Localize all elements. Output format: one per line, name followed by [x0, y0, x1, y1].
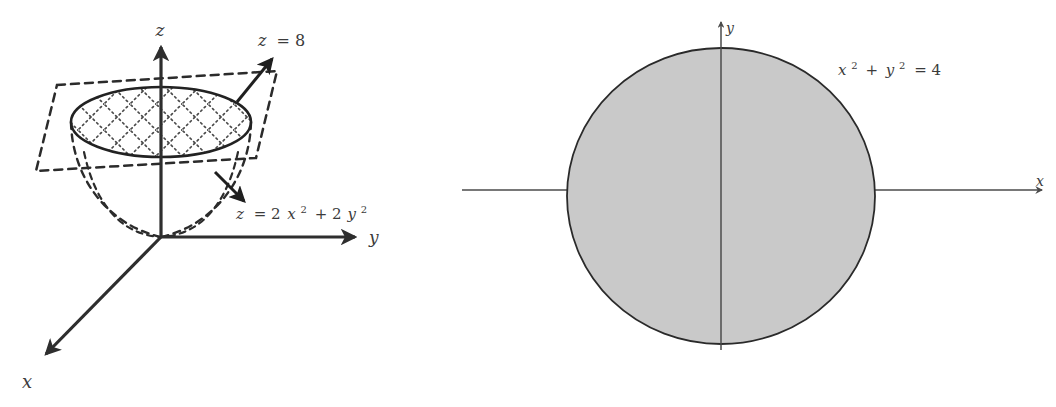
x-axis: x — [22, 237, 161, 392]
parab-label-exp-y: 2 — [361, 204, 367, 215]
x-axis-label: x — [22, 371, 32, 392]
svg-text:z = 8: z = 8 — [257, 31, 305, 50]
paraboloid-label-pointer-arrow — [215, 172, 244, 201]
parab-label-plus: + 2 — [315, 205, 342, 223]
parab-label-eq: = 2 — [254, 205, 281, 223]
paraboloid-pointer-line — [215, 172, 244, 201]
plane-label-z: z — [257, 31, 267, 50]
circ-label-exp-x: 2 — [851, 60, 857, 71]
paraboloid-equation-label: z = 2 x 2 + 2 y 2 — [235, 199, 367, 223]
x-axis-right-label: x — [1036, 173, 1044, 189]
plane-equation-label: z = 8 — [257, 31, 305, 50]
parab-label-exp-x: 2 — [301, 204, 307, 215]
plane-label-pointer-arrow — [237, 59, 272, 102]
circ-label-x: x — [838, 61, 847, 79]
left-3d-panel: z y x z = 8 — [22, 20, 379, 392]
parab-label-y: y — [346, 205, 356, 223]
svg-text:z = 2 x: z = 2 x 2 + 2 y 2 — [235, 199, 367, 223]
y-axis-right-label: y — [725, 20, 735, 36]
circ-label-exp-y: 2 — [899, 60, 905, 71]
figure-root: z y x z = 8 — [0, 0, 1056, 407]
plane-label-eq: = 8 — [277, 31, 306, 50]
x-axis-line — [46, 237, 161, 354]
parab-label-z: z — [235, 205, 244, 223]
circ-label-y: y — [885, 61, 895, 79]
math-figure-canvas: z y x z = 8 — [0, 0, 1056, 407]
parab-label-x: x — [287, 205, 296, 223]
circ-label-plus: + — [865, 61, 878, 79]
plane-pointer-line — [237, 59, 272, 102]
elliptical-cross-section — [60, 80, 270, 170]
circle-equation-label: x 2 + y 2 = 4 — [838, 55, 941, 79]
right-2d-panel: x y x 2 + y 2 = 4 — [462, 20, 1044, 350]
circ-label-eq: = 4 — [914, 61, 941, 79]
svg-text:x 2 +: x 2 + y 2 = 4 — [838, 55, 941, 79]
y-axis-label: y — [368, 227, 379, 247]
z-axis-label: z — [155, 20, 166, 40]
y-axis: y — [161, 227, 379, 247]
